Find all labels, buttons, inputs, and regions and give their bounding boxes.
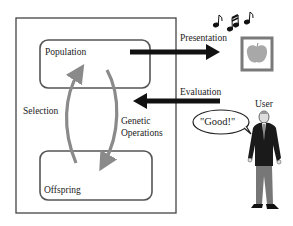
selection-arrow xyxy=(67,72,79,163)
presentation-label: Presentation xyxy=(180,33,227,44)
genetic-operations-label-line1: Genetic xyxy=(121,116,151,127)
presentation-arrow xyxy=(130,44,220,60)
speech-text: "Good!" xyxy=(200,116,235,127)
user-person-icon xyxy=(248,111,281,209)
genetic-operations-label-line2: Operations xyxy=(121,128,163,139)
offspring-label: Offspring xyxy=(44,185,81,196)
evaluation-label: Evaluation xyxy=(180,87,221,98)
genetic-operations-arrow xyxy=(104,70,117,163)
music-notes-icon xyxy=(213,12,253,32)
population-label: Population xyxy=(45,47,86,58)
selection-label: Selection xyxy=(23,106,58,117)
apple-picture-icon xyxy=(242,38,272,70)
user-label: User xyxy=(255,99,273,110)
diagram-canvas: Population Offspring Selection Genetic O… xyxy=(0,0,293,226)
